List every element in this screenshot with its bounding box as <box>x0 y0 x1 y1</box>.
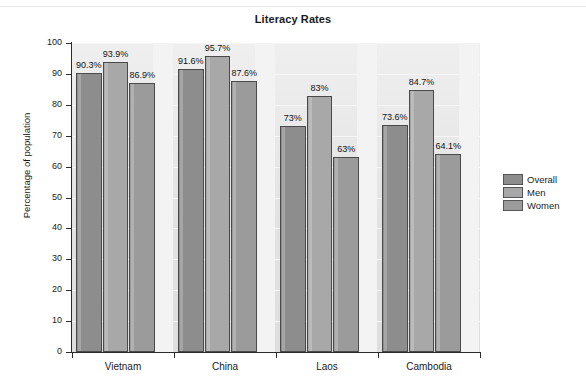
bar-highlight <box>180 70 183 351</box>
y-tick-label: 50 <box>30 192 62 202</box>
page-top-rule <box>0 6 586 7</box>
y-axis-line <box>71 42 72 353</box>
legend-item-men[interactable]: Men <box>503 186 583 198</box>
group-separator <box>153 43 173 352</box>
bar-value-label: 83% <box>298 83 342 93</box>
bar-highlight <box>105 63 108 351</box>
legend-label: Men <box>527 187 545 198</box>
gridline <box>72 43 480 44</box>
group-separator <box>357 43 377 352</box>
bar[interactable] <box>129 83 155 352</box>
group-separator <box>459 43 479 352</box>
x-tick-mark <box>276 352 277 358</box>
bar[interactable] <box>103 62 129 352</box>
legend-label: Overall <box>527 174 557 185</box>
bar[interactable] <box>178 69 204 352</box>
bar[interactable] <box>333 157 359 352</box>
chart-page: Literacy Rates Percentage of population … <box>0 0 586 385</box>
y-tick-label: 90 <box>30 68 62 78</box>
bar-highlight <box>78 74 81 351</box>
bar-highlight <box>207 57 210 351</box>
chart-title: Literacy Rates <box>0 13 586 25</box>
bar-value-label: 64.1% <box>426 141 470 151</box>
x-tick-mark <box>378 352 379 358</box>
bar-value-label: 87.6% <box>222 68 266 78</box>
y-tick-label: 0 <box>30 346 62 356</box>
bar[interactable] <box>435 154 461 352</box>
chart-legend: OverallMenWomen <box>503 173 583 212</box>
y-tick-label: 40 <box>30 222 62 232</box>
bar-highlight <box>384 126 387 351</box>
bar-highlight <box>131 84 134 351</box>
x-tick-label-vietnam: Vietnam <box>72 361 174 372</box>
y-tick-label: 100 <box>30 37 62 47</box>
legend-label: Women <box>527 200 560 211</box>
y-tick-label: 60 <box>30 161 62 171</box>
y-tick-label: 80 <box>30 99 62 109</box>
bar[interactable] <box>76 73 102 352</box>
y-tick-label: 10 <box>30 315 62 325</box>
group-separator <box>255 43 275 352</box>
bar-value-label: 63% <box>324 144 368 154</box>
y-tick-label: 20 <box>30 284 62 294</box>
plot-area: 90.3%93.9%86.9%91.6%95.7%87.6%73%83%63%7… <box>72 43 480 352</box>
bar-value-label: 86.9% <box>120 70 164 80</box>
legend-item-women[interactable]: Women <box>503 199 583 211</box>
bar[interactable] <box>382 125 408 352</box>
bar[interactable] <box>205 56 231 352</box>
bar-highlight <box>233 82 236 351</box>
bar-highlight <box>282 127 285 351</box>
y-tick-label: 70 <box>30 130 62 140</box>
bar[interactable] <box>307 96 333 352</box>
x-tick-mark <box>480 352 481 358</box>
bar[interactable] <box>409 90 435 352</box>
bar-highlight <box>309 97 312 351</box>
x-tick-label-china: China <box>174 361 276 372</box>
x-tick-label-cambodia: Cambodia <box>378 361 480 372</box>
legend-swatch <box>503 200 523 211</box>
bar-value-label: 84.7% <box>400 77 444 87</box>
bar[interactable] <box>231 81 257 352</box>
bar-highlight <box>335 158 338 351</box>
bar[interactable] <box>280 126 306 352</box>
bar-value-label: 93.9% <box>94 49 138 59</box>
y-tick-label: 30 <box>30 253 62 263</box>
bar-value-label: 95.7% <box>196 43 240 53</box>
legend-item-overall[interactable]: Overall <box>503 173 583 185</box>
bar-highlight <box>411 91 414 351</box>
x-tick-mark <box>72 352 73 358</box>
x-tick-label-laos: Laos <box>276 361 378 372</box>
legend-swatch <box>503 187 523 198</box>
bar-highlight <box>437 155 440 351</box>
legend-swatch <box>503 174 523 185</box>
x-tick-mark <box>174 352 175 358</box>
